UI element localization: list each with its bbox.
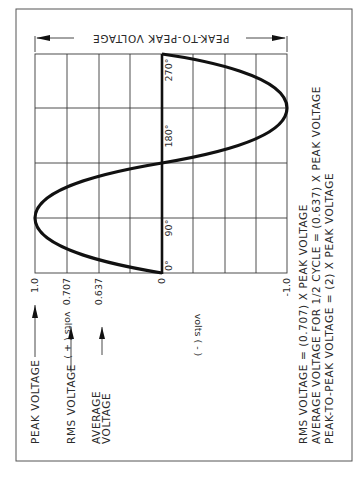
average-voltage-callout-line2: VOLTAGE	[100, 393, 112, 444]
formula-average: AVERAGE VOLTAGE FOR 1/2 CYCLE = (0.637) …	[310, 86, 322, 444]
arrow-up-icon	[32, 305, 38, 318]
tick-zero: 0	[156, 278, 167, 284]
tick-peak: 1.0	[29, 278, 40, 293]
formula-peak-to-peak: PEAK-TO-PEAK VOLTAGE = (2) X PEAK VOLTAG…	[323, 173, 335, 444]
tick-average: 0.637	[93, 278, 104, 305]
phase-270-label: 270°	[163, 59, 174, 82]
arrow-right-icon	[272, 35, 286, 41]
peak-to-peak-dimension: PEAK-TO-PEAK VOLTAGE	[35, 33, 287, 52]
peak-voltage-callout: PEAK VOLTAGE	[29, 359, 41, 444]
phase-0-label: 0°	[163, 260, 174, 271]
formula-rms: RMS VOLTAGE = (0.707) X PEAK VOLTAGE	[297, 204, 309, 444]
volts-negative-label: volts ( - )	[193, 314, 204, 357]
tick-rms: 0.707	[61, 278, 72, 305]
arrow-left-icon	[36, 35, 50, 41]
peak-to-peak-label: PEAK-TO-PEAK VOLTAGE	[93, 33, 230, 45]
tick-negative-peak: -1.0	[281, 278, 292, 297]
voltage-ticks: 1.0 0.707 0.637 0 -1.0	[29, 278, 292, 305]
sine-wave-diagram: PEAK-TO-PEAK VOLTAGE 0° 90° 180° 270° 1.…	[0, 0, 360, 484]
phase-180-label: 180°	[163, 125, 174, 148]
arrow-up-icon	[99, 327, 105, 339]
rms-voltage-callout: RMS VOLTAGE	[65, 364, 77, 444]
phase-labels: 0° 90° 180° 270°	[163, 59, 174, 271]
phase-90-label: 90°	[163, 220, 174, 237]
